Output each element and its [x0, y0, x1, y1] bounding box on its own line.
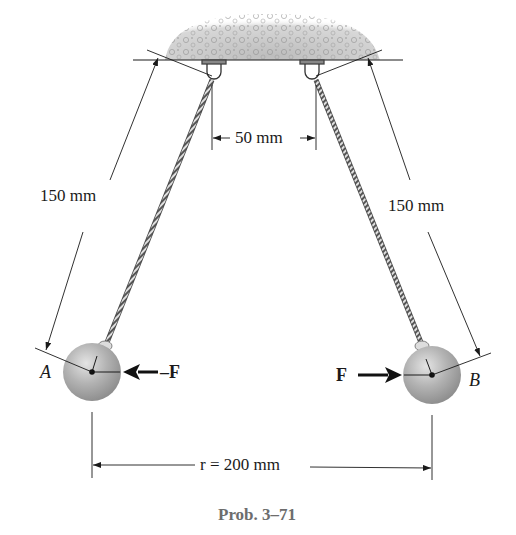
- figure-caption: Prob. 3–71: [218, 505, 296, 525]
- ball-separation-label: r = 200 mm: [200, 455, 280, 475]
- ball-b-label: B: [469, 370, 480, 391]
- force-a-label: –F: [160, 362, 180, 383]
- support-spacing-label: 50 mm: [235, 128, 283, 148]
- ball-separation-text: r = 200 mm: [200, 455, 280, 474]
- force-arrow-left: [123, 364, 158, 380]
- ball-a-label: A: [40, 362, 51, 383]
- force-b-label: F: [336, 365, 347, 386]
- force-arrow-right: [358, 367, 402, 383]
- left-cord-length-label: 150 mm: [40, 186, 96, 206]
- right-eye-hook: [300, 60, 324, 79]
- ceiling-support: [133, 14, 403, 60]
- left-length-dimension: [35, 50, 212, 372]
- left-eye-hook: [202, 60, 226, 79]
- right-cord-length-label: 150 mm: [388, 196, 444, 216]
